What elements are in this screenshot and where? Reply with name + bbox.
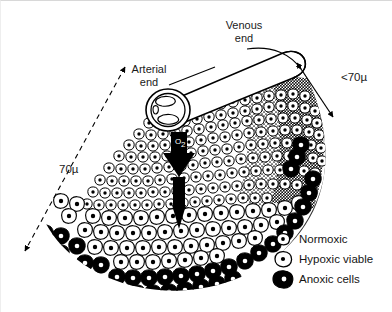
normoxic-nucleus-icon [281,237,285,241]
legend-label-hypoxic-viable: Hypoxic viable [299,253,373,265]
venous-end-label-line1: Venous [226,19,263,31]
venous-end-label-line2: end [235,32,253,44]
arterial-end-label-line2: end [140,76,158,88]
tumor-cord-oxygen-diagram: O 2 Venous end Arterial end <70µ 70µ Nor… [0,0,392,312]
o2-arrow-subscript: 2 [181,140,186,149]
blood-cell-icon [153,106,158,114]
capillary-arterial-lumen [146,89,190,131]
arterial-end-label-line1: Arterial [132,63,167,75]
legend: Normoxic Hypoxic viable Anoxic cells [273,233,373,288]
legend-label-normoxic: Normoxic [299,233,348,245]
legend-item-hypoxic-viable: Hypoxic viable [275,252,373,267]
blood-cell-icon [158,114,179,124]
legend-label-anoxic-cells: Anoxic cells [299,273,360,285]
hypoxic-nucleus-icon [281,257,285,261]
diagram-canvas: O 2 Venous end Arterial end <70µ 70µ Nor… [1,1,392,312]
legend-item-normoxic: Normoxic [277,233,348,245]
arterial-end-leader-line [169,67,215,85]
anoxic-nucleus-icon [282,277,287,282]
arterial-distance-label: 70µ [59,163,79,175]
tumor-cell-mass [1,1,392,312]
venous-distance-label: <70µ [341,71,368,83]
blood-cell-icon [156,96,176,106]
legend-item-anoxic: Anoxic cells [273,271,360,288]
